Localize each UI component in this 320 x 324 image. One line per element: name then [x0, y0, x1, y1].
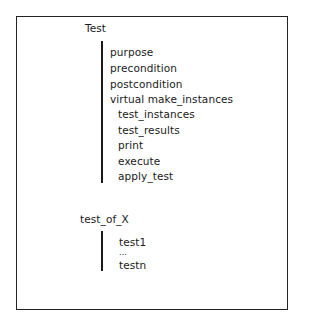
test-member-bracket: [101, 41, 103, 183]
member-postcondition: postcondition: [110, 78, 183, 91]
member-precondition: precondition: [110, 62, 177, 75]
member-print: print: [118, 139, 143, 152]
member-apply-test: apply_test: [118, 170, 173, 183]
member-testn: testn: [119, 259, 146, 272]
member-ellipsis: ...: [119, 246, 127, 259]
member-make-instances: virtual make_instances: [110, 93, 233, 106]
member-purpose: purpose: [110, 46, 153, 59]
class-test-title: Test: [85, 22, 106, 35]
test-of-x-member-bracket: [101, 231, 103, 271]
member-test-results: test_results: [118, 124, 180, 137]
class-test-of-x-title: test_of_X: [80, 213, 129, 226]
member-execute: execute: [118, 155, 160, 168]
member-test-instances: test_instances: [118, 108, 195, 121]
